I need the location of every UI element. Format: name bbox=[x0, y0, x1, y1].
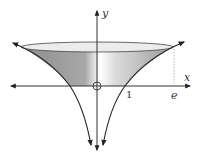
tick-label-1: 1 bbox=[126, 89, 132, 100]
solid-of-revolution-diagram: y x 1 e bbox=[0, 0, 200, 163]
y-axis-label: y bbox=[101, 7, 109, 20]
x-axis-label: x bbox=[184, 71, 191, 84]
tick-label-e: e bbox=[171, 89, 178, 102]
